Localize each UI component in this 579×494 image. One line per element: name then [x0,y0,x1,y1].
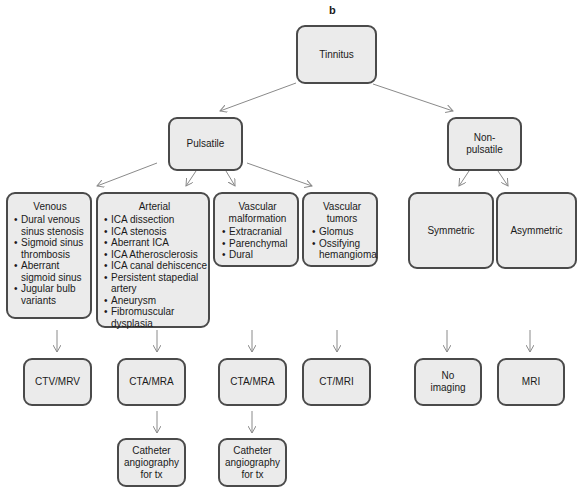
node-ct-mri: CT/MRI [302,358,371,406]
node-ctv-mrv: CTV/MRV [23,358,92,406]
list-item: Dural venous sinus stenosis [13,214,87,237]
node-no-imaging: No imaging [414,358,482,406]
panel-label: b [329,4,336,16]
catheter-line1: Catheter [132,445,170,457]
node-no-imaging-line2: imaging [430,382,465,394]
node-vascular-tumors-title: Vascular tumors [311,201,373,225]
node-mri: MRI [497,358,565,406]
node-symmetric: Symmetric [408,192,494,269]
node-venous-title: Venous [33,201,66,213]
tumor-types-list: Glomus Ossifying hemangioma [311,226,373,261]
list-item: Jugular bulb variants [13,283,87,306]
node-venous: Venous Dural venous sinus stenosis Sigmo… [6,192,92,319]
malformation-types-list: Extracranial Parenchymal Dural [221,226,294,261]
node-ctv-mrv-label: CTV/MRV [35,376,80,388]
node-vascular-malformation-title: Vascular malformation [221,201,295,225]
node-arterial: Arterial ICA dissection ICA stenosis Abe… [96,192,210,328]
catheter-line3: for tx [140,469,162,481]
list-item: Dural [221,249,294,261]
arterial-causes-list: ICA dissection ICA stenosis Aberrant ICA… [103,214,206,329]
node-arterial-title: Arterial [139,201,171,213]
node-ct-mri-label: CT/MRI [319,376,353,388]
list-item: Parenchymal [221,238,294,250]
list-item: ICA canal dehiscence [103,260,206,272]
node-vascular-tumors: Vascular tumors Glomus Ossifying hemangi… [302,192,378,267]
venous-causes-list: Dural venous sinus stenosis Sigmoid sinu… [13,214,87,306]
node-non-pulsatile-line2: pulsatile [466,144,503,156]
node-symmetric-label: Symmetric [427,225,474,237]
node-pulsatile-label: Pulsatile [187,138,225,150]
node-vascular-malformation: Vascular malformation Extracranial Paren… [213,192,299,267]
list-item: Aberrant sigmoid sinus [13,260,87,283]
list-item: ICA Atherosclerosis [103,249,206,261]
node-non-pulsatile-line1: Non- [474,132,496,144]
node-catheter-angiography-malformation: Catheter angiography for tx [218,438,287,487]
node-asymmetric-label: Asymmetric [510,225,562,237]
list-item: Persistent stapedial artery [103,272,206,295]
node-cta-mra-malformation-label: CTA/MRA [230,376,274,388]
node-catheter-angiography-arterial: Catheter angiography for tx [117,438,186,487]
node-pulsatile: Pulsatile [168,117,243,171]
node-mri-label: MRI [522,376,540,388]
list-item: Glomus [311,226,373,238]
node-non-pulsatile: Non- pulsatile [447,117,522,171]
list-item: ICA dissection [103,214,206,226]
node-no-imaging-line1: No [442,370,455,382]
list-item: Extracranial [221,226,294,238]
node-tinnitus-label: Tinnitus [319,49,354,61]
node-cta-mra-arterial-label: CTA/MRA [129,376,173,388]
node-tinnitus: Tinnitus [296,25,377,84]
node-cta-mra-malformation: CTA/MRA [218,358,287,406]
list-item: Ossifying hemangioma [311,238,373,261]
node-cta-mra-arterial: CTA/MRA [117,358,186,406]
catheter-line1: Catheter [233,445,271,457]
catheter-line2: angiography [124,457,179,469]
list-item: Aberrant ICA [103,237,206,249]
catheter-line2: angiography [225,457,280,469]
node-asymmetric: Asymmetric [496,192,577,269]
list-item: ICA stenosis [103,226,206,238]
list-item: Sigmoid sinus thrombosis [13,237,87,260]
catheter-line3: for tx [241,469,263,481]
list-item: Fibromuscular dysplasia [103,306,206,329]
list-item: Aneurysm [103,295,206,307]
